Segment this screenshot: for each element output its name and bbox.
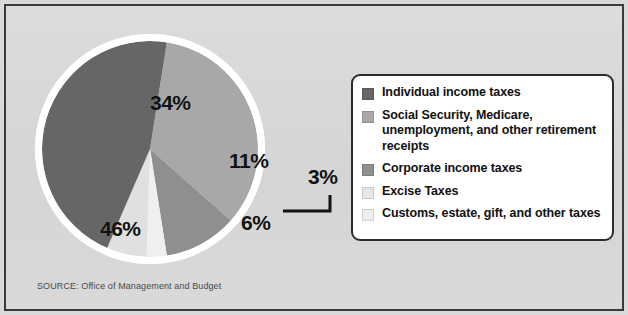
legend-swatch-icon [362,187,374,199]
legend-item-label: Customs, estate, gift, and other taxes [382,206,600,222]
chart-frame: 34% 11% 46% 6% 3% Individual income taxe… [4,4,624,311]
pie-label-46: 46% [100,217,141,241]
legend-item-corporate-income-taxes[interactable]: Corporate income taxes [362,161,604,177]
legend-swatch-icon [362,88,374,100]
chart-canvas: 34% 11% 46% 6% 3% Individual income taxe… [0,0,628,315]
pie-label-34: 34% [150,91,191,115]
pie-label-11: 11% [229,149,268,173]
pie-label-3: 3% [308,165,337,189]
legend-item-individual-income-taxes[interactable]: Individual income taxes [362,85,604,101]
legend-item-label: Excise Taxes [382,184,458,200]
legend-swatch-icon [362,164,374,176]
legend-item-customs-estate-gift[interactable]: Customs, estate, gift, and other taxes [362,206,604,222]
legend-item-label: Individual income taxes [382,85,521,101]
legend-item-label: Corporate income taxes [382,161,522,177]
legend-item-social-security[interactable]: Social Security, Medicare, unemployment,… [362,108,604,155]
pie-chart: 34% 11% 46% 6% 3% [32,31,268,267]
legend: Individual income taxes Social Security,… [351,74,614,241]
pie-label-6: 6% [241,211,270,235]
source-note: SOURCE: Office of Management and Budget [37,281,221,291]
legend-item-excise-taxes[interactable]: Excise Taxes [362,184,604,200]
legend-swatch-icon [362,111,374,123]
pie-leader-line-3pct [282,191,342,217]
legend-swatch-icon [362,209,374,221]
legend-item-label: Social Security, Medicare, unemployment,… [382,108,604,155]
